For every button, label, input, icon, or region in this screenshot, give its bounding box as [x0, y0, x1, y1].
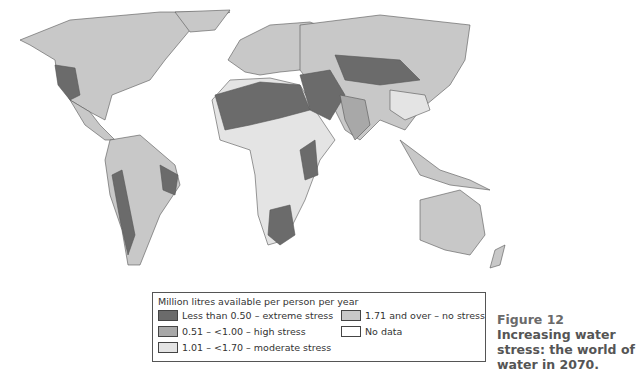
legend-item-high: 0.51 – <1.00 – high stress — [158, 326, 306, 337]
legend-label-no-data: No data — [365, 326, 402, 337]
region-australia — [420, 190, 485, 255]
map-legend: Million litres available per person per … — [152, 292, 486, 362]
legend-label-no-stress: 1.71 and over – no stress — [365, 310, 485, 321]
legend-swatch-extreme — [158, 310, 178, 321]
legend-label-high: 0.51 – <1.00 – high stress — [182, 326, 306, 337]
legend-swatch-moderate — [158, 342, 178, 353]
figure-label: Figure 12 — [497, 312, 564, 327]
region-southeast-asia — [400, 140, 490, 190]
legend-label-moderate: 1.01 – <1.70 – moderate stress — [182, 342, 331, 353]
caption-text: Increasing water stress: the world of wa… — [497, 327, 635, 372]
legend-item-moderate: 1.01 – <1.70 – moderate stress — [158, 342, 331, 353]
legend-item-extreme: Less than 0.50 – extreme stress — [158, 310, 333, 321]
figure-caption: Figure 12 Increasing water stress: the w… — [497, 312, 639, 372]
legend-label-extreme: Less than 0.50 – extreme stress — [182, 310, 333, 321]
legend-swatch-no-stress — [341, 310, 361, 321]
legend-swatch-high — [158, 326, 178, 337]
legend-title: Million litres available per person per … — [158, 296, 358, 307]
legend-item-no-data: No data — [341, 326, 402, 337]
legend-item-no-stress: 1.71 and over – no stress — [341, 310, 485, 321]
legend-swatch-no-data — [341, 326, 361, 337]
land-layer — [20, 10, 505, 268]
region-new-zealand — [490, 245, 505, 268]
world-map — [0, 0, 639, 270]
